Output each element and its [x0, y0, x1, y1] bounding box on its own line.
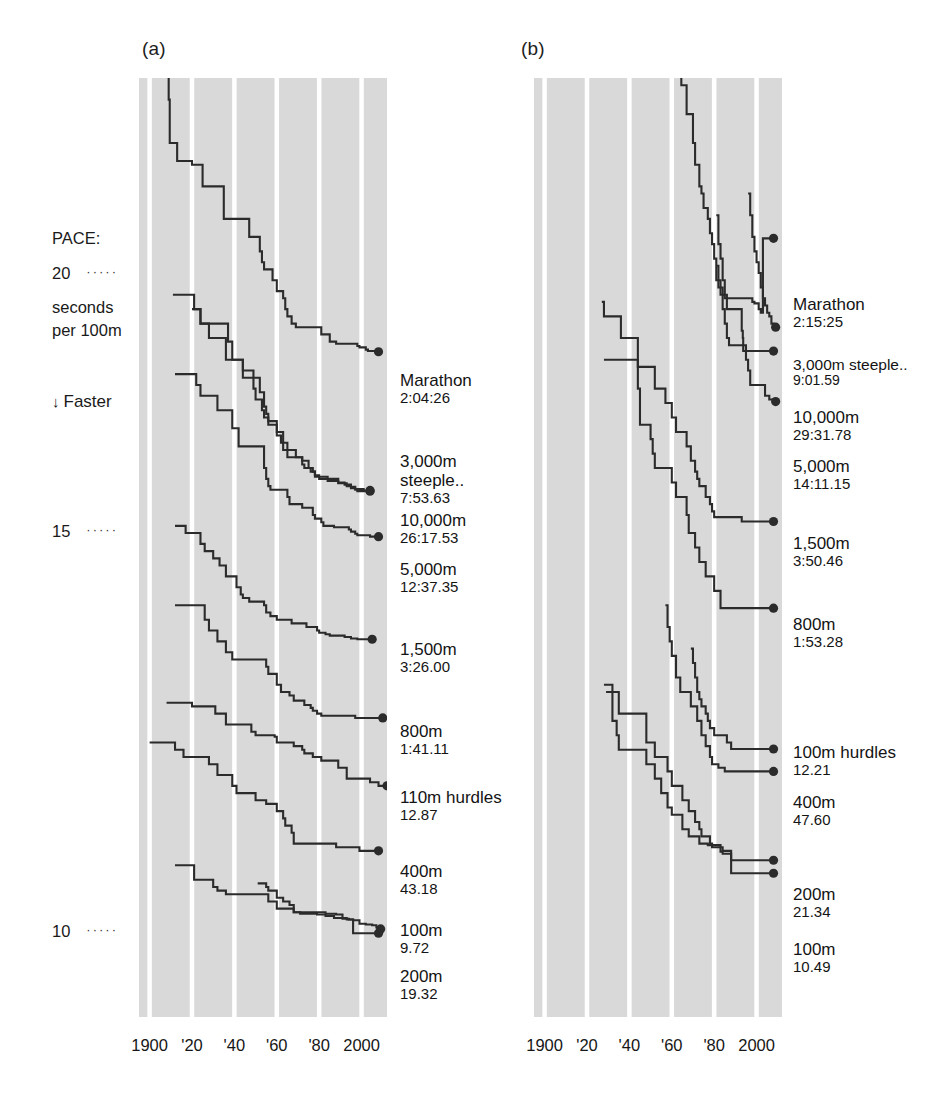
- series-label-steeple-a: 3,000m steeple.. 7:53.63: [400, 452, 464, 507]
- series-label-100m-a: 100m 9.72: [400, 921, 443, 957]
- series-label-200m-b: 200m 21.34: [793, 885, 836, 921]
- series-time: 47.60: [793, 812, 836, 829]
- plot-area-panel-b: [534, 78, 782, 1017]
- series-time: 3:50.46: [793, 553, 850, 570]
- series-time: 1:53.28: [793, 634, 843, 651]
- series-label-marathon-a: Marathon 2:04:26: [400, 371, 472, 407]
- series-time: 3:26.00: [400, 659, 457, 676]
- ytick-15-label: 15: [52, 522, 70, 540]
- series-name: 110m hurdles: [400, 788, 502, 807]
- series-400m: [665, 605, 778, 776]
- series-endpoint-marker: [374, 929, 383, 938]
- series-path: [716, 215, 773, 351]
- series-name: 100m: [793, 940, 836, 959]
- series-time: 12.21: [793, 762, 896, 779]
- series-label-10000m-b: 10,000m 29:31.78: [793, 408, 859, 444]
- panel-label-a: (a): [142, 38, 166, 60]
- series-time: 29:31.78: [793, 427, 859, 444]
- xtick-label: '60: [661, 1036, 683, 1055]
- series-label-400m-b: 400m 47.60: [793, 793, 836, 829]
- series-endpoint-marker: [769, 346, 778, 355]
- series-label-5000m-b: 5,000m 14:11.15: [793, 457, 850, 493]
- series-endpoint-marker: [769, 604, 778, 613]
- series-time: 21.34: [793, 904, 836, 921]
- series-endpoint-marker: [378, 713, 387, 722]
- series-endpoint-marker: [382, 781, 387, 790]
- ytick-15-row: 15·····: [52, 522, 118, 541]
- xtick-label: 2000: [738, 1036, 775, 1055]
- series-label-1500m-a: 1,500m 3:26.00: [400, 640, 457, 676]
- series-endpoint-marker: [374, 846, 383, 855]
- series-5-000m: [175, 374, 383, 541]
- series-800m: [175, 605, 387, 722]
- series-endpoint-marker: [769, 234, 778, 243]
- series-name: 3,000m steeple..: [793, 356, 908, 373]
- series-endpoint-marker: [365, 487, 374, 496]
- xtick-label: '20: [576, 1036, 598, 1055]
- series-name: 5,000m: [400, 560, 458, 579]
- series-path: [173, 295, 370, 491]
- series-time: 9.72: [400, 940, 443, 957]
- series-endpoint-marker: [769, 744, 778, 753]
- series-name: 800m: [400, 722, 449, 741]
- xtick-label: '20: [181, 1036, 203, 1055]
- series-path: [192, 309, 370, 490]
- xtick-label: '80: [703, 1036, 725, 1055]
- series-name: 3,000m: [400, 452, 464, 471]
- xtick-label: 1900: [526, 1036, 563, 1055]
- series-endpoint-marker: [771, 397, 780, 406]
- series-time: 10.49: [793, 959, 836, 976]
- ytick-15-dots: ·····: [86, 522, 118, 537]
- series-label-110mh-a: 110m hurdles 12.87: [400, 788, 502, 824]
- faster-label: Faster: [64, 392, 112, 411]
- down-arrow-icon: ↓: [52, 393, 60, 410]
- series-time: 43.18: [400, 881, 443, 898]
- xtick-label: 2000: [343, 1036, 380, 1055]
- series-5-000m: [716, 266, 780, 406]
- ytick-10-row: 10·····: [52, 922, 118, 941]
- series-time: 12.87: [400, 807, 502, 824]
- series-path: [167, 78, 379, 352]
- series-3-000m-steeple-: [748, 194, 780, 332]
- series-marathon: [680, 78, 778, 313]
- series-100m-hurdles: [691, 649, 778, 754]
- series-path: [748, 194, 776, 328]
- figure-root: (a) (b) PACE: 20····· seconds per 100m ↓…: [0, 0, 949, 1107]
- series-endpoint-marker: [769, 856, 778, 865]
- series-label-5000m-a: 5,000m 12:37.35: [400, 560, 458, 596]
- series-path: [680, 78, 773, 313]
- series-time: 14:11.15: [793, 476, 850, 493]
- series-endpoint-marker: [771, 323, 780, 332]
- xtick-label: '40: [619, 1036, 641, 1055]
- xtick-label: '80: [308, 1036, 330, 1055]
- series-name: 400m: [400, 862, 443, 881]
- series-label-steeple-b: 3,000m steeple.. 9:01.59: [793, 356, 908, 389]
- series-10-000m: [716, 215, 778, 355]
- series-label-10000m-a: 10,000m 26:17.53: [400, 511, 466, 547]
- series-name: Marathon: [400, 371, 472, 390]
- plot-area-panel-a: [139, 78, 387, 1017]
- series-name: Marathon: [793, 295, 865, 314]
- series-time: 9:01.59: [793, 373, 908, 389]
- series-name: 200m: [400, 967, 443, 986]
- panel-label-b: (b): [521, 38, 545, 60]
- faster-annotation: ↓Faster: [52, 392, 112, 412]
- ytick-10-label: 10: [52, 922, 70, 940]
- series-400m: [150, 743, 384, 856]
- series-name: 5,000m: [793, 457, 850, 476]
- series-endpoint-marker: [368, 635, 377, 644]
- series-label-800m-b: 800m 1:53.28: [793, 615, 843, 651]
- ytick-20-label: 20: [52, 264, 70, 282]
- series-label-1500m-b: 1,500m 3:50.46: [793, 534, 850, 570]
- series-name: 100m hurdles: [793, 743, 896, 762]
- series-path: [691, 649, 774, 749]
- series-time: 2:04:26: [400, 390, 472, 407]
- chart-svg-panel-a: [139, 78, 387, 1017]
- series-endpoint-marker: [769, 767, 778, 776]
- xtick-label: '60: [266, 1036, 288, 1055]
- series-path: [150, 743, 379, 851]
- xtick-label: '40: [224, 1036, 246, 1055]
- series-200m: [606, 692, 778, 865]
- series-label-100m-b: 100m 10.49: [793, 940, 836, 976]
- series-time: 1:41.11: [400, 741, 449, 758]
